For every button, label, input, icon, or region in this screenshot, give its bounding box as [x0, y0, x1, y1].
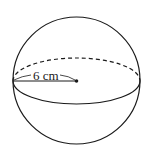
label-leader-right: [60, 75, 75, 80]
sphere-diagram: 6 cm: [0, 0, 149, 156]
radius-label: 6 cm: [33, 69, 59, 82]
sphere-drawing: [0, 0, 149, 156]
equator-front: [13, 81, 140, 104]
center-point: [75, 79, 79, 83]
label-leader-left: [14, 75, 31, 80]
